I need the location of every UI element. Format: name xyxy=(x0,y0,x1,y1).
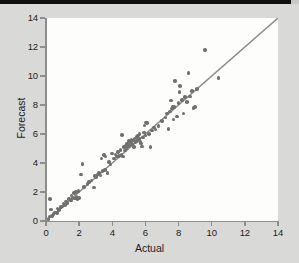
data-point xyxy=(132,145,136,149)
data-point xyxy=(188,95,192,99)
data-point xyxy=(77,189,81,193)
y-axis-label: Forecast xyxy=(15,78,27,158)
data-point xyxy=(178,84,182,88)
data-point xyxy=(81,162,85,166)
top-band-tail xyxy=(291,0,299,4)
x-tick-label: 6 xyxy=(133,227,157,238)
data-point xyxy=(49,208,53,212)
y-tick-mark xyxy=(40,191,45,192)
data-point xyxy=(140,145,144,149)
x-tick-label: 10 xyxy=(200,227,224,238)
y-tick-mark xyxy=(40,17,45,18)
x-tick-mark xyxy=(244,221,245,226)
data-point xyxy=(82,185,86,189)
x-tick-label: 12 xyxy=(233,227,257,238)
data-point xyxy=(145,121,149,125)
x-tick-mark xyxy=(178,221,179,226)
y-tick-mark xyxy=(40,104,45,105)
data-point xyxy=(160,119,164,123)
scatter-plot-figure: 02468101214 02468101214 Actual Forecast xyxy=(0,0,299,263)
data-point xyxy=(173,79,177,83)
y-tick-label: 0 xyxy=(14,215,38,226)
data-point xyxy=(190,89,194,93)
data-point xyxy=(121,155,125,159)
x-tick-mark xyxy=(112,221,113,226)
y-tick-label: 14 xyxy=(14,12,38,23)
x-axis-label: Actual xyxy=(0,242,299,254)
x-tick-label: 0 xyxy=(34,227,58,238)
y-tick-mark xyxy=(40,133,45,134)
top-dark-band xyxy=(0,0,291,4)
x-tick-mark xyxy=(78,221,79,226)
data-point xyxy=(106,171,110,175)
data-point xyxy=(178,90,182,94)
data-point xyxy=(77,196,81,200)
data-point xyxy=(183,95,187,99)
data-point xyxy=(185,100,189,104)
y-tick-label: 12 xyxy=(14,41,38,52)
data-point xyxy=(79,173,83,177)
data-point xyxy=(193,105,197,109)
data-point xyxy=(203,48,207,52)
x-tick-mark xyxy=(45,221,46,226)
x-tick-label: 8 xyxy=(167,227,191,238)
x-tick-mark xyxy=(211,221,212,226)
data-point xyxy=(195,87,199,91)
x-tick-label: 2 xyxy=(67,227,91,238)
y-tick-mark xyxy=(40,75,45,76)
y-tick-label: 2 xyxy=(14,186,38,197)
y-tick-mark xyxy=(40,220,45,221)
x-tick-mark xyxy=(277,221,278,226)
data-point xyxy=(48,197,52,201)
data-point xyxy=(147,132,151,136)
y-tick-mark xyxy=(40,162,45,163)
data-point xyxy=(173,105,177,109)
y-axis-line xyxy=(45,18,47,222)
x-tick-mark xyxy=(145,221,146,226)
y-tick-label: 4 xyxy=(14,157,38,168)
data-point xyxy=(164,116,168,120)
x-tick-label: 14 xyxy=(266,227,290,238)
data-point xyxy=(217,76,221,80)
data-point xyxy=(175,115,179,119)
data-point xyxy=(120,133,124,137)
y-tick-mark xyxy=(40,46,45,47)
data-point xyxy=(149,145,153,149)
x-axis-line xyxy=(45,221,278,223)
x-tick-label: 4 xyxy=(100,227,124,238)
